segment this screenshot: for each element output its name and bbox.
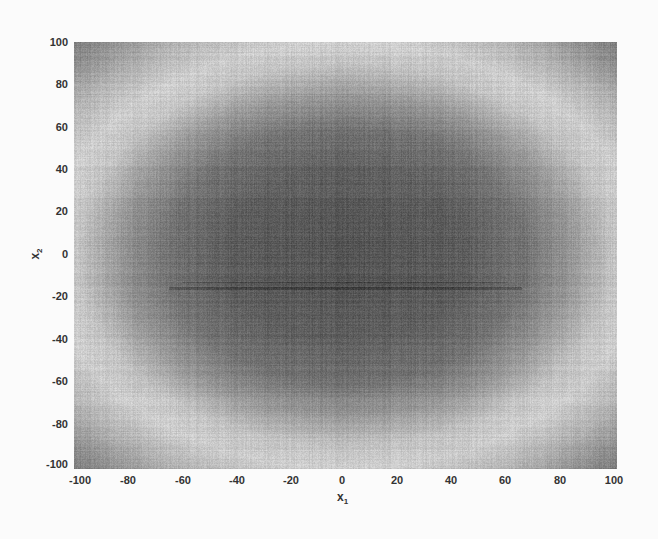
y-tick-label: 60: [56, 121, 68, 133]
y-axis-label-text: x: [28, 253, 42, 260]
x-tick-label: -80: [120, 474, 136, 486]
y-tick-label: 0: [62, 248, 68, 260]
x-axis-label-subscript: 1: [344, 497, 348, 506]
x-tick-label: -60: [175, 474, 191, 486]
x-tick-label: -100: [69, 474, 91, 486]
y-tick-label: -100: [46, 458, 68, 470]
x-tick-label: 100: [605, 474, 623, 486]
plot-area: [74, 42, 617, 469]
x-tick-label: 60: [499, 474, 511, 486]
x-tick-label: -40: [229, 474, 245, 486]
heatmap-figure: 100 80 60 40 20 0 -20 -40 -60 -80 -100 -…: [0, 0, 658, 539]
heatmap-image: [74, 42, 617, 469]
x-tick-label: -20: [283, 474, 299, 486]
x-tick-label: 0: [339, 474, 345, 486]
y-tick-label: 40: [56, 163, 68, 175]
x-tick-label: 80: [554, 474, 566, 486]
x-tick-label: 40: [445, 474, 457, 486]
y-axis-label-subscript: 2: [35, 248, 44, 252]
y-tick-label: 100: [50, 36, 68, 48]
y-tick-label: -20: [52, 290, 68, 302]
y-tick-label: 20: [56, 205, 68, 217]
y-tick-label: -60: [52, 375, 68, 387]
x-axis-label-text: x: [337, 490, 344, 504]
y-tick-label: -40: [52, 333, 68, 345]
x-tick-label: 20: [391, 474, 403, 486]
y-tick-label: 80: [56, 78, 68, 90]
x-axis-label: x1: [337, 490, 348, 506]
y-tick-label: -80: [52, 418, 68, 430]
y-axis-label: x2: [28, 248, 44, 259]
